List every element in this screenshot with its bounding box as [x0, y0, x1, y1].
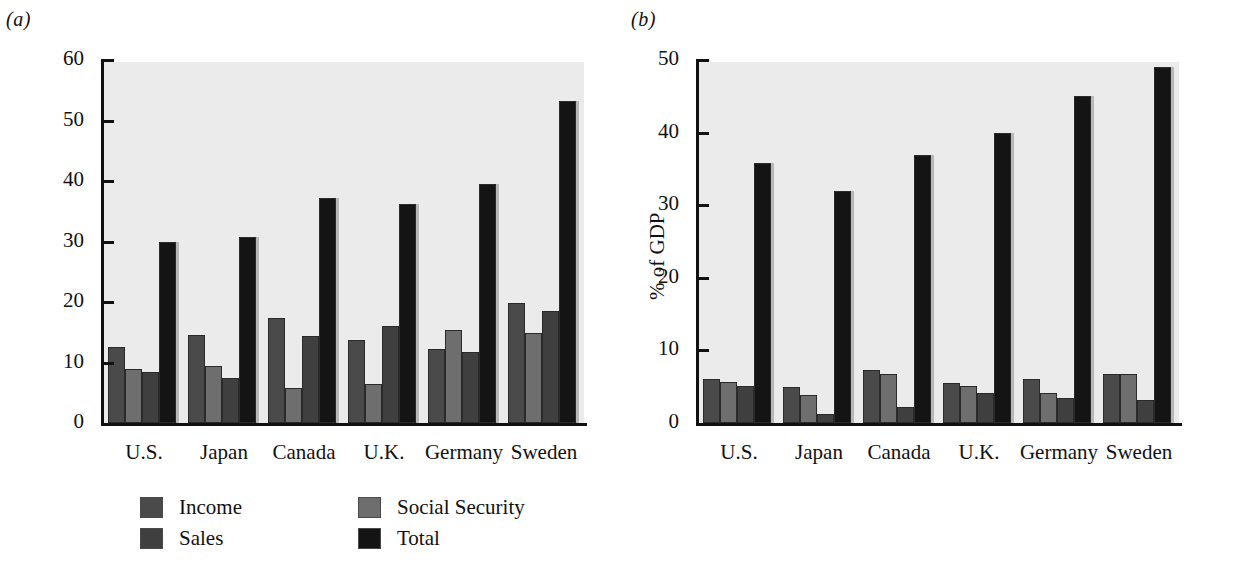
panel-a-tag: (a): [6, 8, 31, 31]
y-tick-label: 60: [24, 46, 84, 71]
y-tick-label: 20: [24, 288, 84, 313]
y-tick: [101, 120, 114, 123]
legend-swatch-social-security: [358, 497, 381, 518]
legend-label-social-security: Social Security: [397, 495, 525, 520]
panel-b-x-axis: [696, 423, 1182, 426]
bar-income-us: [108, 347, 125, 423]
bar-total-germany: [479, 184, 496, 423]
bar-social-security-canada: [285, 388, 302, 423]
bar-group: [783, 62, 851, 423]
bar-total-uk: [399, 204, 416, 423]
bar-group: [348, 62, 416, 423]
bar-social-security-uk: [365, 384, 382, 423]
bar-sales-japan: [222, 378, 239, 423]
y-tick: [101, 59, 114, 62]
bar-social-security-japan: [205, 366, 222, 423]
bar-total-sweden: [559, 101, 576, 423]
y-tick-label: 50: [619, 46, 679, 71]
bar-group: [108, 62, 176, 423]
legend-label-total: Total: [397, 526, 440, 551]
legend-row: Sales Total: [140, 523, 576, 554]
bar-group: [863, 62, 931, 423]
bar-sales-sweden: [542, 311, 559, 423]
panel-a-plot-area: [104, 62, 584, 423]
y-tick: [101, 241, 114, 244]
legend-swatch-total: [358, 528, 381, 549]
bar-health-canada: [863, 370, 880, 423]
bar-total-canada: [914, 155, 931, 423]
y-tick: [696, 204, 709, 207]
x-tick-label: Sweden: [1079, 440, 1199, 465]
panel-a: (a) 0102030405060 U.S.JapanCanadaU.K.Ger…: [0, 0, 619, 567]
bar-education-japan: [800, 395, 817, 423]
bar-defense-us: [737, 386, 754, 423]
y-tick-label: 10: [24, 349, 84, 374]
legend-swatch-sales: [140, 528, 163, 549]
bar-health-uk: [943, 383, 960, 423]
bar-health-us: [703, 379, 720, 423]
bar-health-sweden: [1103, 374, 1120, 423]
bar-total-germany: [1074, 96, 1091, 423]
bar-health-japan: [783, 387, 800, 423]
y-tick-label: 40: [619, 119, 679, 144]
panel-b-plot-area: [699, 62, 1179, 423]
y-tick-label: 30: [24, 228, 84, 253]
bar-sales-germany: [462, 352, 479, 423]
y-tick: [101, 180, 114, 183]
y-tick: [696, 59, 709, 62]
y-tick: [101, 301, 114, 304]
legend-label-sales: Sales: [179, 526, 223, 551]
y-tick: [696, 132, 709, 135]
legend-item-social-security: Social Security: [358, 495, 576, 520]
bar-income-sweden: [508, 303, 525, 423]
bar-group: [508, 62, 576, 423]
bar-total-us: [159, 242, 176, 423]
bar-total-us: [754, 163, 771, 423]
y-tick-label: 30: [619, 191, 679, 216]
x-tick-label: Sweden: [484, 440, 604, 465]
bar-education-us: [720, 382, 737, 423]
bar-group: [428, 62, 496, 423]
bar-income-uk: [348, 340, 365, 423]
panel-b-tag: (b): [631, 8, 656, 31]
bar-income-japan: [188, 335, 205, 423]
bar-total-japan: [239, 237, 256, 423]
bar-group: [703, 62, 771, 423]
panel-a-legend: Income Social Security Sales Total: [140, 492, 576, 554]
y-tick-label: 40: [24, 167, 84, 192]
bar-group: [1103, 62, 1171, 423]
panel-a-x-axis: [101, 423, 587, 426]
y-tick-label: 10: [619, 336, 679, 361]
bar-education-canada: [880, 374, 897, 423]
y-tick-label: 0: [24, 409, 84, 434]
bar-defense-japan: [817, 414, 834, 423]
bar-income-canada: [268, 318, 285, 423]
bar-sales-canada: [302, 336, 319, 423]
bar-group: [1023, 62, 1091, 423]
bar-education-sweden: [1120, 374, 1137, 423]
bar-social-security-germany: [445, 330, 462, 423]
bar-group: [268, 62, 336, 423]
y-tick: [696, 349, 709, 352]
bar-defense-sweden: [1137, 400, 1154, 423]
bar-total-uk: [994, 133, 1011, 423]
y-tick-label: 20: [619, 264, 679, 289]
bar-income-germany: [428, 349, 445, 423]
y-tick-label: 50: [24, 107, 84, 132]
bar-health-germany: [1023, 379, 1040, 423]
bar-defense-germany: [1057, 398, 1074, 423]
legend-item-income: Income: [140, 495, 358, 520]
legend-item-sales: Sales: [140, 526, 358, 551]
panel-b-bars: [699, 62, 1179, 423]
bar-total-japan: [834, 191, 851, 423]
bar-sales-uk: [382, 326, 399, 423]
bar-education-uk: [960, 386, 977, 423]
legend-label-income: Income: [179, 495, 242, 520]
bar-social-security-us: [125, 369, 142, 423]
bar-total-sweden: [1154, 67, 1171, 423]
bar-social-security-sweden: [525, 333, 542, 423]
bar-sales-us: [142, 372, 159, 423]
y-tick: [101, 362, 114, 365]
bar-total-canada: [319, 198, 336, 423]
y-tick-label: 0: [619, 409, 679, 434]
